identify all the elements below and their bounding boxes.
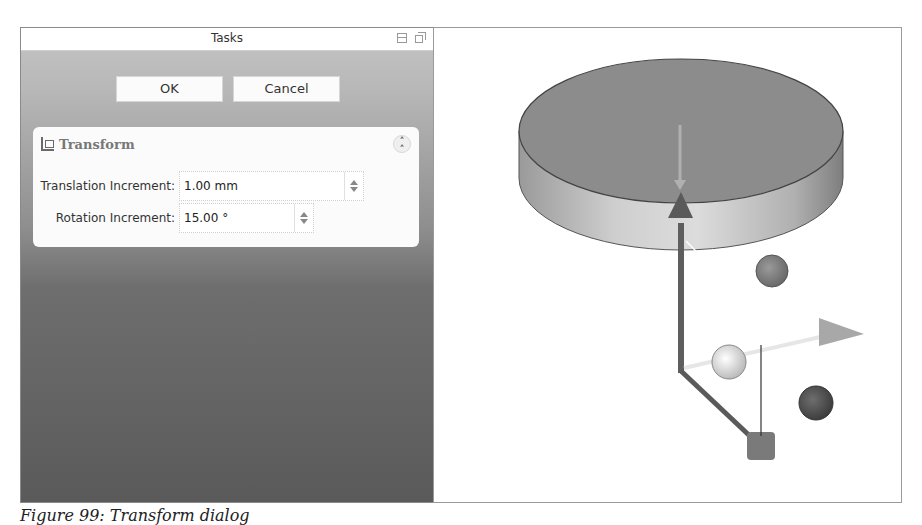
x-axis[interactable] xyxy=(681,371,752,438)
rotation-handle-sphere[interactable] xyxy=(756,255,788,287)
rotation-stepper[interactable] xyxy=(294,204,313,232)
y-axis-arrow-icon[interactable] xyxy=(819,318,864,346)
z-axis[interactable] xyxy=(678,223,684,373)
step-down-icon[interactable] xyxy=(350,187,358,192)
rotation-handle-sphere[interactable] xyxy=(799,386,833,420)
transform-title: Transform xyxy=(59,137,135,152)
transform-header: Transform xyxy=(39,133,135,155)
y-axis[interactable] xyxy=(684,335,829,368)
translation-increment-spinbox[interactable]: 1.00 mm xyxy=(179,171,364,201)
rotation-value[interactable]: 15.00 ° xyxy=(184,211,228,225)
translation-label: Translation Increment: xyxy=(39,179,175,193)
tasks-panel: Tasks OK Cancel Transform ˄˄ Translation… xyxy=(20,27,433,503)
transform-section: Transform ˄˄ Translation Increment: 1.00… xyxy=(33,127,419,247)
undock-icon[interactable] xyxy=(415,35,423,43)
rotation-label: Rotation Increment: xyxy=(39,211,175,225)
cancel-button[interactable]: Cancel xyxy=(233,76,340,102)
3d-viewport[interactable]: Placement triad xyxy=(433,27,902,503)
translation-value[interactable]: 1.00 mm xyxy=(184,179,238,193)
rotation-handle-sphere[interactable] xyxy=(712,345,746,379)
transform-axes-icon xyxy=(39,136,55,152)
tasks-title: Tasks xyxy=(21,31,433,45)
figure-caption: Figure 99: Transform dialog xyxy=(20,506,250,525)
x-axis-cube-icon[interactable] xyxy=(747,432,775,460)
step-up-icon[interactable] xyxy=(350,180,358,185)
translation-row: Translation Increment: 1.00 mm xyxy=(39,171,364,201)
step-down-icon[interactable] xyxy=(300,219,308,224)
float-icon[interactable] xyxy=(397,33,407,43)
double-chevron-up-icon[interactable]: ˄˄ xyxy=(393,135,411,153)
rotation-row: Rotation Increment: 15.00 ° xyxy=(39,203,314,233)
ok-button[interactable]: OK xyxy=(116,76,223,102)
step-up-icon[interactable] xyxy=(300,212,308,217)
cylinder-model[interactable] xyxy=(434,28,901,502)
tasks-titlebar: Tasks xyxy=(21,28,433,51)
translation-stepper[interactable] xyxy=(344,172,363,200)
rotation-increment-spinbox[interactable]: 15.00 ° xyxy=(179,203,314,233)
